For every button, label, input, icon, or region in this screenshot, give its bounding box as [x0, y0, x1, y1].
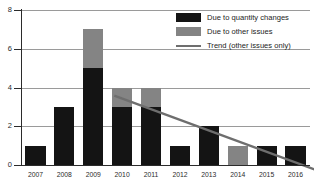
- trend-line-path: [114, 96, 314, 175]
- x-axis-label: 2016: [281, 172, 310, 179]
- y-axis-tick: [14, 49, 21, 50]
- legend-swatch-icon: [176, 27, 201, 36]
- x-axis-line: [21, 165, 310, 166]
- legend-label: Due to other issues: [207, 28, 272, 36]
- x-axis-label: 2007: [21, 172, 50, 179]
- legend-label: Trend (other issues only): [207, 42, 291, 50]
- y-axis-label: 8: [0, 6, 12, 14]
- legend: Due to quantity changes Due to other iss…: [176, 11, 310, 53]
- legend-item-other-issues: Due to other issues: [176, 25, 310, 38]
- x-axis-label: 2008: [50, 172, 79, 179]
- x-axis-label: 2014: [223, 172, 252, 179]
- y-axis-tick: [14, 126, 21, 127]
- x-axis-label: 2013: [194, 172, 223, 179]
- y-axis-label: 0: [0, 161, 12, 169]
- y-axis-label: 4: [0, 84, 12, 92]
- x-axis-label: 2010: [108, 172, 137, 179]
- x-axis-label: 2015: [252, 172, 281, 179]
- bar-chart: 02468 2007200820092010201120122013201420…: [0, 0, 314, 187]
- y-axis-tick: [14, 10, 21, 11]
- y-axis-label: 6: [0, 45, 12, 53]
- y-axis-line: [21, 9, 22, 166]
- y-axis-tick: [14, 88, 21, 89]
- x-axis-label: 2012: [166, 172, 195, 179]
- legend-line-icon: [176, 41, 201, 50]
- legend-label: Due to quantity changes: [207, 14, 289, 22]
- x-axis-label: 2009: [79, 172, 108, 179]
- x-axis-label: 2011: [137, 172, 166, 179]
- legend-item-trend: Trend (other issues only): [176, 39, 310, 52]
- y-axis-tick: [14, 165, 21, 166]
- y-axis-label: 2: [0, 122, 12, 130]
- legend-item-quantity-changes: Due to quantity changes: [176, 11, 310, 24]
- legend-swatch-icon: [176, 13, 201, 22]
